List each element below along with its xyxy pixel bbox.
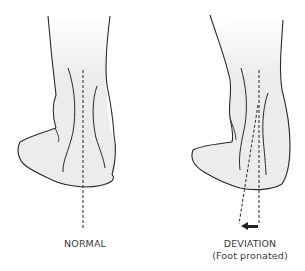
normal-caption-title: NORMAL xyxy=(40,238,130,250)
deviation-caption-title: DEVIATION xyxy=(195,238,305,250)
deviation-caption: DEVIATION (Foot pronated) xyxy=(195,238,305,262)
deviation-foot-drawing xyxy=(192,15,291,230)
normal-foot-drawing xyxy=(18,16,115,228)
deviation-foot-fill xyxy=(192,15,291,190)
normal-caption: NORMAL xyxy=(40,238,130,250)
foot-alignment-illustration xyxy=(0,0,305,271)
pronation-arrow-icon xyxy=(241,222,258,230)
deviation-caption-subtitle: (Foot pronated) xyxy=(195,250,305,262)
normal-foot-fill xyxy=(18,16,115,187)
